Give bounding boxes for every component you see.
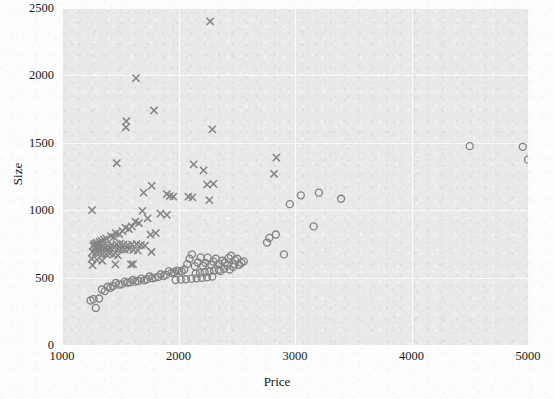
x-axis-label: Price	[0, 374, 554, 390]
data-point-cross	[207, 18, 214, 25]
y-tick-label: 1000	[0, 203, 54, 218]
y-axis-label: Size	[10, 134, 26, 214]
data-point-circle	[466, 143, 473, 150]
series-cross-series	[88, 18, 280, 269]
data-point-cross	[113, 159, 120, 166]
data-point-cross	[99, 257, 106, 264]
data-point-circle	[338, 195, 345, 202]
data-point-cross	[144, 215, 151, 222]
y-tick-label: 2000	[0, 68, 54, 83]
data-point-cross	[273, 154, 280, 161]
data-point-circle	[525, 156, 529, 163]
data-point-cross	[147, 231, 154, 238]
data-point-cross	[190, 161, 197, 168]
data-point-circle	[315, 189, 322, 196]
data-point-cross	[139, 207, 146, 214]
data-point-cross	[89, 262, 96, 269]
data-point-cross	[132, 75, 139, 82]
data-point-cross	[206, 196, 213, 203]
data-point-circle	[92, 304, 99, 311]
x-tick-label: 3000	[283, 349, 308, 364]
x-tick-label: 4000	[399, 349, 424, 364]
data-point-cross	[148, 248, 155, 255]
plot-area	[62, 8, 528, 345]
data-point-cross	[88, 207, 95, 214]
data-point-cross	[270, 170, 277, 177]
data-point-circle	[286, 201, 293, 208]
data-point-cross	[150, 107, 157, 114]
data-point-cross	[152, 230, 159, 237]
data-point-cross	[112, 261, 119, 268]
x-tick-label: 5000	[516, 349, 541, 364]
y-tick-label: 1500	[0, 135, 54, 150]
scatter-plot-figure: 10002000300040005000 0500100015002000250…	[0, 0, 554, 399]
data-point-cross	[163, 211, 170, 218]
data-markers	[62, 8, 528, 345]
series-circle-series	[87, 143, 528, 312]
data-point-circle	[297, 192, 304, 199]
data-point-circle	[272, 231, 279, 238]
y-tick-label: 500	[0, 270, 54, 285]
data-point-cross	[209, 126, 216, 133]
data-point-circle	[280, 251, 287, 258]
data-point-cross	[140, 189, 147, 196]
data-point-circle	[172, 277, 179, 284]
y-tick-label: 0	[0, 338, 54, 353]
data-point-cross	[203, 181, 210, 188]
x-tick-label: 2000	[166, 349, 191, 364]
data-point-cross	[148, 182, 155, 189]
data-point-circle	[310, 223, 317, 230]
data-point-circle	[519, 143, 526, 150]
y-tick-label: 2500	[0, 1, 54, 16]
data-point-cross	[122, 124, 129, 131]
data-point-cross	[157, 210, 164, 217]
data-point-cross	[200, 167, 207, 174]
